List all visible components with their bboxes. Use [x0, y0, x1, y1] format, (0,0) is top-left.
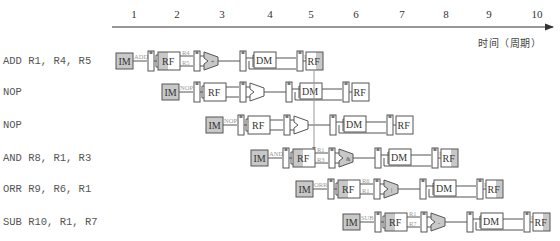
opcode-label: NOP [224, 117, 237, 124]
rf-label: RF [342, 184, 355, 195]
source-register-1: R1 [409, 210, 417, 217]
source-register-1: R4 [182, 49, 190, 56]
pipeline-row: IMORRRFR6R1|DMR9RF [296, 177, 503, 200]
opcode-label: NOP [180, 84, 193, 91]
source-register-2: R7 [409, 220, 417, 227]
alu-operation: | [391, 187, 392, 193]
im-label: IM [119, 56, 131, 67]
source-register-2: R3 [317, 156, 325, 163]
dm-label: DM [391, 152, 407, 163]
pipeline-row: IMADDRFR4R5+DMR1RF [116, 49, 323, 72]
alu-operation: & [346, 156, 351, 162]
rf-label: RF [162, 56, 175, 67]
source-register-2: R5 [182, 59, 190, 66]
alu-stage [250, 83, 264, 101]
opcode-label: ADD [134, 53, 148, 60]
data-hazard-line [312, 70, 316, 150]
im-label: IM [209, 120, 221, 131]
alu-operation: - [438, 220, 440, 226]
opcode-label: SUB [361, 214, 374, 221]
rf-writeback-label: RF [443, 153, 456, 164]
rf-writeback-label: RF [308, 56, 321, 67]
opcode-label: AND [269, 150, 283, 157]
opcode-label: ORR [314, 181, 328, 188]
rf-writeback-label: RF [535, 217, 548, 228]
rf-label: RF [252, 120, 265, 131]
dm-label: DM [346, 119, 362, 130]
dm-label: DM [483, 216, 499, 227]
rf-writeback-label: RF [488, 184, 501, 195]
dm-label: DM [436, 183, 452, 194]
dm-label: DM [302, 86, 318, 97]
pipeline-row: IMSUBRFR1R7-DMR10RF [343, 210, 550, 233]
source-register-1: R1 [317, 146, 325, 153]
im-label: IM [165, 87, 177, 98]
rf-label: RF [389, 217, 402, 228]
dm-label: DM [256, 55, 272, 66]
im-label: IM [254, 153, 266, 164]
pipeline-row: IMNOPRFDMRF [206, 115, 413, 135]
rf-writeback-label: RF [398, 120, 411, 131]
rf-label: RF [208, 87, 221, 98]
pipeline-row: IMANDRFR1R3&DMR8RF [251, 146, 458, 169]
pipeline-svg: IMADDRFR4R5+DMR1RFIMNOPRFDMRFIMNOPRFDMRF… [0, 0, 560, 241]
rf-writeback-label: RF [354, 87, 367, 98]
pipeline-row: IMNOPRFDMRF [162, 82, 369, 102]
rf-label: RF [297, 153, 310, 164]
im-label: IM [299, 184, 311, 195]
source-register-1: R6 [362, 177, 370, 184]
alu-stage [294, 116, 308, 134]
pipeline-diagram: 12345678910 时间（周期） ADD R1, R4, R5NOPNOPA… [0, 0, 560, 241]
source-register-2: R1 [362, 187, 370, 194]
im-label: IM [346, 217, 358, 228]
